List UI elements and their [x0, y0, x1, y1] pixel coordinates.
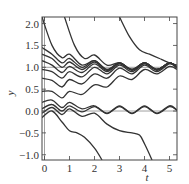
solution-curve-s1 [42, 17, 177, 70]
y-tick-label: 2.0 [25, 18, 39, 30]
solution-curve-s13 [120, 17, 178, 65]
x-axis-label: t [145, 171, 149, 183]
plot-frame [42, 17, 177, 160]
y-tick-label: 0.5 [25, 83, 39, 95]
y-tick-label: 0.0 [25, 105, 39, 117]
x-tick-label: 1 [67, 162, 73, 174]
y-tick-label: −0.5 [19, 127, 39, 139]
chart: 012345−1.0−0.50.00.51.01.52.0 t y [0, 0, 189, 184]
ticks: 012345−1.0−0.50.00.51.01.52.0 [19, 17, 177, 174]
x-tick-label: 3 [117, 162, 123, 174]
x-tick-label: 5 [167, 162, 173, 174]
y-tick-label: 1.5 [25, 39, 39, 51]
solution-curve-s11 [42, 111, 102, 160]
plot-lines [42, 17, 177, 160]
x-tick-label: 0 [42, 162, 48, 174]
solution-curve-s12 [65, 17, 178, 70]
y-axis-label: y [4, 90, 16, 96]
y-tick-label: −1.0 [19, 149, 39, 161]
y-tick-label: 1.0 [25, 61, 39, 73]
x-tick-label: 2 [92, 162, 98, 174]
solution-curve-s2 [42, 48, 177, 70]
solution-curve-s9 [42, 104, 177, 113]
